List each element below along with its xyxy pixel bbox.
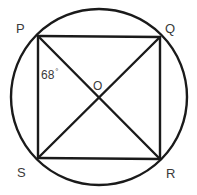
angle-value: 68 (41, 68, 54, 82)
side-RS (38, 158, 160, 159)
side-PQ (38, 36, 160, 37)
geometry-figure: P Q S R O 68° (0, 0, 197, 195)
center-point-label-O: O (93, 80, 102, 92)
vertex-label-R: R (166, 167, 175, 180)
vertex-label-Q: Q (165, 22, 175, 35)
vertex-label-S: S (17, 166, 26, 179)
vertex-label-P: P (16, 22, 25, 35)
degree-symbol-icon: ° (55, 67, 58, 76)
angle-annotation-68-degrees: 68° (41, 68, 59, 81)
